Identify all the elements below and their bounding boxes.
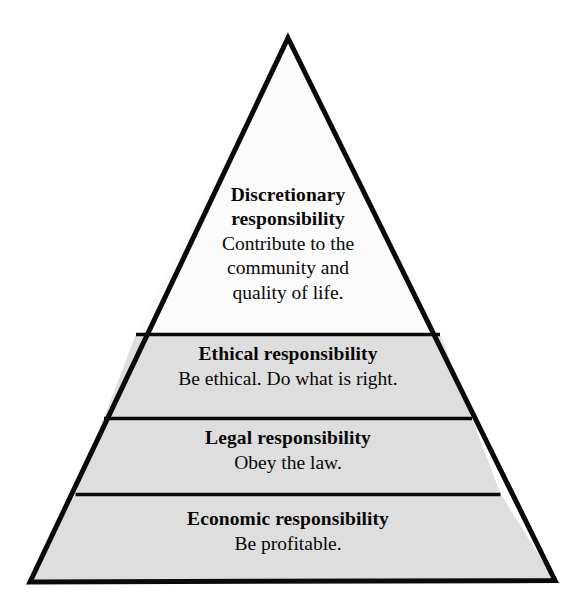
- pyramid-tier-1-title-line-2: responsibility: [140, 207, 436, 231]
- pyramid-tier-3-description: Obey the law.: [72, 451, 504, 475]
- pyramid-tier-1-title-line-1: Discretionary: [140, 183, 436, 207]
- pyramid-tier-3-label: Legal responsibility Obey the law.: [72, 428, 504, 474]
- pyramid-tier-4-description: Be profitable.: [44, 532, 532, 556]
- pyramid-tier-1-description-line-2: community and: [140, 256, 436, 280]
- pyramid-tier-2-description: Be ethical. Do what is right.: [92, 367, 484, 391]
- pyramid-tier-1-description-line-3: quality of life.: [140, 281, 436, 305]
- pyramid-tier-1-description-line-1: Contribute to the: [140, 232, 436, 256]
- pyramid-tier-3-title: Legal responsibility: [72, 428, 504, 448]
- pyramid-tier-4-title: Economic responsibility: [44, 509, 532, 529]
- pyramid-tier-2-title: Ethical responsibility: [92, 344, 484, 364]
- pyramid-tier-1-label: Discretionary responsibility Contribute …: [140, 183, 436, 305]
- pyramid-tier-2-label: Ethical responsibility Be ethical. Do wh…: [92, 344, 484, 390]
- pyramid-tier-4-label: Economic responsibility Be profitable.: [44, 509, 532, 555]
- pyramid-diagram: Discretionary responsibility Contribute …: [0, 0, 584, 613]
